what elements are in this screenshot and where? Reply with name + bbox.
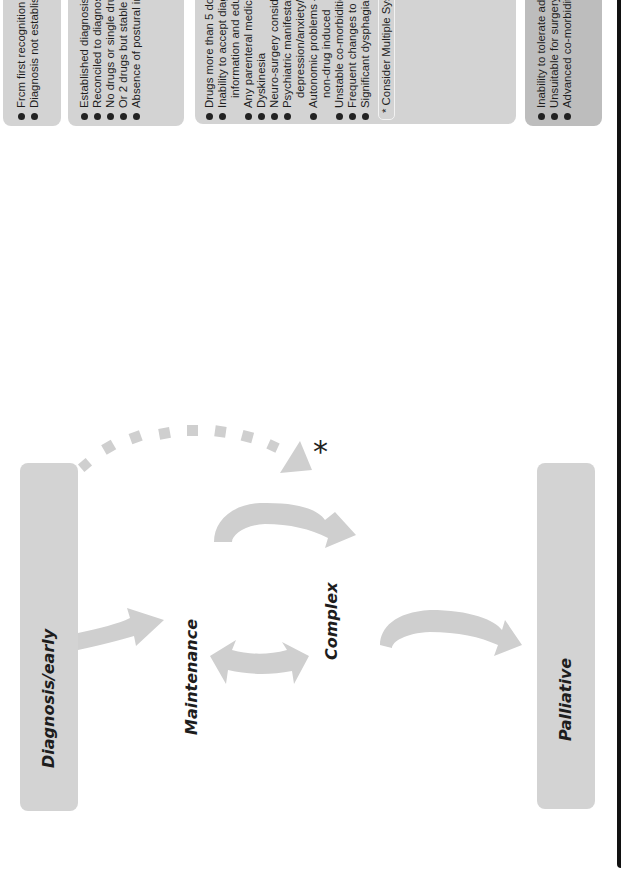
stage-label-complex: Complex xyxy=(322,582,341,660)
arrow-icon xyxy=(78,608,164,650)
flow-arrows: * xyxy=(0,0,621,896)
stage-label-maintenance: Maintenance xyxy=(182,619,201,735)
stage-label-palliative: Palliative xyxy=(556,658,575,741)
double-arrow-icon xyxy=(210,640,309,684)
arrow-icon xyxy=(214,503,356,548)
stage-box-diagnosis: Diagnosis/early xyxy=(20,463,78,811)
page-edge-bar xyxy=(617,0,621,868)
dashed-arrow-icon xyxy=(78,425,312,473)
stage-box-palliative: Palliative xyxy=(537,463,595,809)
arrow-icon xyxy=(380,610,522,656)
stage-label-diagnosis: Diagnosis/early xyxy=(39,629,58,768)
asterisk-icon: * xyxy=(313,434,328,469)
